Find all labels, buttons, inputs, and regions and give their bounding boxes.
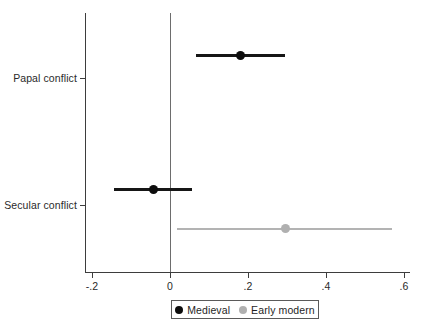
x-axis-label-0: 0: [150, 280, 190, 292]
y-axis-label-secular-conflict: Secular conflict: [0, 199, 77, 211]
x-axis-label-0-6: .6: [384, 280, 421, 292]
legend-item-early-modern: Early modern: [239, 304, 315, 316]
y-tick-papal-conflict: [80, 78, 86, 79]
estimate-dot-secular-conflict-medieval: [149, 185, 158, 194]
x-tick-0-6: [404, 272, 405, 278]
x-axis-label-0-4: .4: [306, 280, 346, 292]
x-tick-neg-0-2: [92, 272, 93, 278]
legend-label-early-modern: Early modern: [251, 304, 315, 316]
x-axis-label-neg-0-2: -.2: [72, 280, 112, 292]
legend: Medieval Early modern: [171, 300, 319, 319]
legend-item-medieval: Medieval: [175, 304, 230, 316]
x-tick-0: [170, 272, 171, 278]
coefficient-plot-figure: Papal conflict Secular conflict -.2 0 .2…: [0, 0, 421, 332]
zero-reference-line: [170, 13, 171, 272]
legend-label-medieval: Medieval: [187, 304, 230, 316]
y-tick-secular-conflict: [80, 205, 86, 206]
y-axis-label-papal-conflict: Papal conflict: [0, 72, 77, 84]
estimate-dot-papal-conflict-medieval: [236, 51, 245, 60]
y-axis-spine: [85, 13, 86, 272]
x-axis-label-0-2: .2: [228, 280, 268, 292]
estimate-dot-secular-conflict-early-modern: [281, 224, 290, 233]
x-tick-0-4: [326, 272, 327, 278]
filled-circle-icon-medieval: [175, 306, 183, 314]
x-tick-0-2: [248, 272, 249, 278]
filled-circle-icon-early-modern: [239, 306, 247, 314]
